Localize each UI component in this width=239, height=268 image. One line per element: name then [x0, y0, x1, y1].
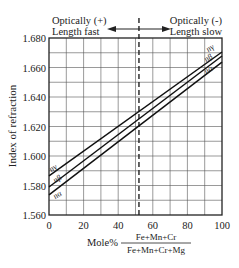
- x-tick-label: 20: [78, 220, 89, 231]
- x-tick-label: 40: [113, 220, 124, 231]
- x-axis-fraction-denominator: Fe+Mn+Cr+Mg: [127, 245, 186, 255]
- annotation-left-line2: Length fast: [52, 26, 100, 37]
- series-label-n-γ-right: nγ: [205, 42, 216, 54]
- y-axis-label: Index of refraction: [6, 84, 18, 167]
- x-axis-label: Mole%: [87, 237, 118, 248]
- y-tick-labels: 1.5601.5801.6001.6201.6401.6601.680: [22, 33, 46, 221]
- x-tick-label: 80: [182, 220, 193, 231]
- grid-lines: [49, 38, 222, 215]
- y-tick-label: 1.640: [22, 92, 46, 103]
- series-label-n-α-left: nα: [52, 189, 64, 201]
- x-axis-fraction-numerator: Fe+Mn+Cr: [136, 232, 177, 242]
- x-tick-labels: 020406080100: [46, 220, 230, 231]
- y-tick-label: 1.600: [22, 151, 46, 162]
- y-tick-label: 1.660: [22, 63, 46, 74]
- y-tick-label: 1.680: [22, 33, 46, 44]
- x-tick-label: 100: [214, 220, 230, 231]
- x-tick-label: 0: [46, 220, 51, 231]
- y-tick-label: 1.580: [22, 181, 46, 192]
- refraction-index-chart: nγnγnβnβnαnα 1.5601.5801.6001.6201.6401.…: [0, 0, 239, 268]
- y-tick-label: 1.560: [22, 210, 46, 221]
- y-tick-label: 1.620: [22, 122, 46, 133]
- annotation-right-line2: Length slow: [170, 26, 223, 37]
- x-tick-label: 60: [148, 220, 159, 231]
